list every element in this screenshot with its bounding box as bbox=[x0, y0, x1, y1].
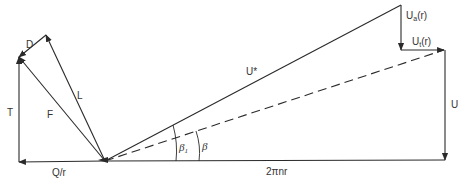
two-pi-nr-line bbox=[105, 160, 445, 161]
velocity-force-diagram: D L F T Q/r U* Ua(r) Ut(r) U 2πnr β1 β bbox=[0, 0, 461, 183]
label-t: T bbox=[7, 107, 13, 118]
label-beta-1: β1 bbox=[178, 141, 188, 155]
label-f: F bbox=[47, 109, 53, 120]
label-two-pi-nr: 2πnr bbox=[266, 166, 288, 177]
label-u: U bbox=[451, 99, 458, 110]
label-d: D bbox=[26, 39, 33, 50]
f-arrow bbox=[19, 57, 105, 161]
label-u-t: Ut(r) bbox=[412, 36, 431, 48]
label-u-a: Ua(r) bbox=[406, 10, 427, 22]
u-star-line bbox=[105, 5, 401, 161]
label-l: L bbox=[77, 90, 83, 101]
beta-arc bbox=[196, 131, 200, 161]
beta-1-arc bbox=[173, 125, 177, 161]
label-u-star: U* bbox=[246, 66, 257, 77]
label-beta: β bbox=[201, 140, 208, 152]
l-arrow bbox=[46, 35, 105, 161]
label-q-r: Q/r bbox=[52, 167, 67, 178]
q-r-arrow bbox=[19, 161, 105, 162]
resultant-dashed-line bbox=[105, 50, 444, 161]
